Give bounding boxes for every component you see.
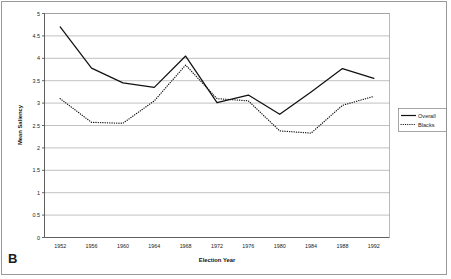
- x-tick-labels: 1952195619601964196819721976198019841988…: [54, 243, 380, 249]
- legend-label-blacks: Blacks: [418, 122, 435, 128]
- y-tick-labels: 00.511.522.533.544.55: [33, 11, 41, 241]
- x-axis-title: Election Year: [199, 257, 236, 263]
- panel-letter: B: [8, 252, 17, 265]
- x-tick-label: 1960: [117, 243, 129, 249]
- y-tick-label: 0.5: [33, 212, 41, 218]
- y-tick-label: 3: [37, 100, 40, 106]
- y-tick-label: 5: [37, 11, 40, 17]
- x-tick-label: 1972: [211, 243, 223, 249]
- y-tick-label: 3.5: [33, 78, 41, 84]
- y-gridlines: [45, 14, 390, 216]
- series-line-overall: [60, 27, 374, 114]
- y-tick-label: 2.5: [33, 123, 41, 129]
- y-tick-label: 4.5: [33, 33, 41, 39]
- x-tick-label: 1976: [242, 243, 254, 249]
- chart-legend: Overall Blacks: [399, 109, 447, 132]
- y-tick-label: 1: [37, 190, 40, 196]
- x-tick-label: 1988: [336, 243, 348, 249]
- x-tick-label: 1992: [368, 243, 380, 249]
- y-axis-title: Mean Saliency: [17, 104, 23, 145]
- x-tick-label: 1952: [54, 243, 66, 249]
- y-tick-label: 2: [37, 145, 40, 151]
- line-chart: 00.511.522.533.544.55 195219561960196419…: [0, 0, 451, 279]
- legend-label-overall: Overall: [418, 113, 436, 119]
- x-tick-label: 1984: [305, 243, 317, 249]
- x-tick-label: 1956: [86, 243, 98, 249]
- y-tick-label: 4: [37, 55, 40, 61]
- x-tick-label: 1980: [274, 243, 286, 249]
- y-tick-label: 0: [37, 235, 40, 241]
- figure-panel: 00.511.522.533.544.55 195219561960196419…: [0, 0, 451, 279]
- y-tick-label: 1.5: [33, 167, 41, 173]
- x-tick-label: 1968: [180, 243, 192, 249]
- x-tick-label: 1964: [148, 243, 160, 249]
